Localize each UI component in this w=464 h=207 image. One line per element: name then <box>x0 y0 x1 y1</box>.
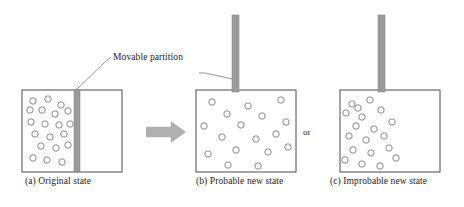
leader-lines-group <box>75 57 232 91</box>
entropy-expansion-figure: Movable partition or (a) Original state … <box>0 0 464 207</box>
panel-c <box>340 15 440 172</box>
panels-group <box>22 15 440 172</box>
panel-b <box>196 15 296 172</box>
movable-partition-a <box>74 90 80 172</box>
panel-b-caption: (b) Probable new state <box>196 176 283 186</box>
container-box-b <box>196 90 296 172</box>
process-arrow-icon <box>146 121 186 143</box>
raised-partition-b <box>232 15 239 92</box>
movable-partition-label: Movable partition <box>113 52 183 62</box>
raised-partition-c <box>378 15 385 92</box>
panel-a <box>22 90 122 172</box>
process-arrow-group <box>146 121 186 143</box>
panel-c-caption: (c) Improbable new state <box>330 176 427 186</box>
leader-line-right <box>199 73 232 79</box>
leader-line-left <box>75 57 111 91</box>
panel-a-caption: (a) Original state <box>25 176 91 186</box>
or-separator-label: or <box>303 127 311 137</box>
